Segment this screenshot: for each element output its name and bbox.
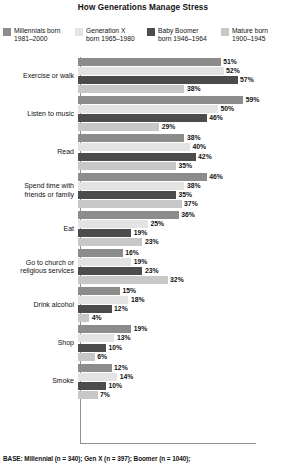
bar-row[interactable]: 50% — [78, 105, 286, 113]
bar-value-label: 52% — [226, 67, 240, 75]
bar[interactable] — [78, 325, 131, 333]
bar[interactable] — [78, 314, 89, 322]
bar[interactable] — [78, 364, 112, 372]
bar-row[interactable]: 46% — [78, 173, 286, 181]
legend-item-1[interactable]: Generation Xborn 1965–1980 — [75, 27, 147, 44]
bar[interactable] — [78, 305, 112, 313]
bar[interactable] — [78, 85, 184, 93]
bar[interactable] — [78, 182, 184, 190]
bar[interactable] — [78, 344, 106, 352]
category-label: Read — [0, 148, 78, 156]
bar-row[interactable]: 10% — [78, 382, 286, 390]
bar-row[interactable]: 12% — [78, 364, 286, 372]
bar[interactable] — [78, 334, 114, 342]
bar[interactable] — [78, 67, 224, 75]
bar-row[interactable]: 38% — [78, 85, 286, 93]
bar-row[interactable]: 40% — [78, 143, 286, 151]
plot-area: Exercise or walk51%52%57%38%Listen to mu… — [0, 57, 286, 445]
bar[interactable] — [78, 373, 117, 381]
category-label-line2: religious services — [0, 267, 74, 275]
bar[interactable] — [78, 267, 142, 275]
bar-value-label: 6% — [97, 353, 107, 361]
bar-row[interactable]: 37% — [78, 200, 286, 208]
bar[interactable] — [78, 162, 176, 170]
legend-label-line2: born 1965–1980 — [86, 35, 135, 43]
bar-row[interactable]: 46% — [78, 114, 286, 122]
legend-item-label: Mature born1900–1945 — [232, 27, 268, 44]
bar[interactable] — [78, 211, 179, 219]
bar-row[interactable]: 19% — [78, 229, 286, 237]
bar-value-label: 57% — [240, 76, 254, 84]
bar-row[interactable]: 57% — [78, 76, 286, 84]
bar-row[interactable]: 36% — [78, 211, 286, 219]
bar[interactable] — [78, 391, 98, 399]
legend-label-line2: born 1946–1964 — [158, 35, 207, 43]
bar-row[interactable]: 42% — [78, 153, 286, 161]
bar-value-label: 23% — [145, 267, 159, 275]
bar-row[interactable]: 35% — [78, 191, 286, 199]
bar-row[interactable]: 7% — [78, 391, 286, 399]
bar[interactable] — [78, 258, 131, 266]
bar-value-label: 4% — [92, 314, 102, 322]
bar-value-label: 29% — [162, 123, 176, 131]
bar-row[interactable]: 13% — [78, 334, 286, 342]
bar[interactable] — [78, 200, 182, 208]
bar-row[interactable]: 59% — [78, 96, 286, 104]
bar[interactable] — [78, 276, 168, 284]
bar-row[interactable]: 29% — [78, 123, 286, 131]
bar-row[interactable]: 51% — [78, 58, 286, 66]
bar[interactable] — [78, 143, 190, 151]
bar[interactable] — [78, 353, 95, 361]
bar[interactable] — [78, 191, 176, 199]
legend-item-0[interactable]: Millennials born1981–2000 — [3, 27, 75, 44]
bar-row[interactable]: 14% — [78, 373, 286, 381]
bar-value-label: 19% — [134, 258, 148, 266]
bar-group: Go to church orreligious services16%19%2… — [0, 248, 286, 286]
bar[interactable] — [78, 249, 123, 257]
legend-item-3[interactable]: Mature born1900–1945 — [221, 27, 283, 44]
bar[interactable] — [78, 238, 142, 246]
legend-item-2[interactable]: Baby Boomerborn 1946–1964 — [147, 27, 221, 44]
bar-row[interactable]: 12% — [78, 305, 286, 313]
bar[interactable] — [78, 58, 221, 66]
bar[interactable] — [78, 173, 207, 181]
bar-group: Drink alcohol15%18%12%4% — [0, 286, 286, 324]
bar[interactable] — [78, 123, 159, 131]
bar-row[interactable]: 19% — [78, 325, 286, 333]
bar-set: 19%13%10%6% — [78, 324, 286, 362]
bar[interactable] — [78, 153, 196, 161]
bar[interactable] — [78, 382, 106, 390]
bar-row[interactable]: 25% — [78, 220, 286, 228]
chart-title: How Generations Manage Stress — [0, 3, 286, 12]
bar-value-label: 7% — [100, 391, 110, 399]
bar-row[interactable]: 32% — [78, 276, 286, 284]
bar[interactable] — [78, 76, 238, 84]
chart-container: How Generations Manage Stress Millennial… — [0, 0, 286, 468]
bar-row[interactable]: 38% — [78, 182, 286, 190]
bar-row[interactable]: 23% — [78, 267, 286, 275]
bar[interactable] — [78, 287, 120, 295]
bar[interactable] — [78, 229, 131, 237]
bar-row[interactable]: 4% — [78, 314, 286, 322]
bar-set: 15%18%12%4% — [78, 286, 286, 324]
bar-row[interactable]: 38% — [78, 134, 286, 142]
bar-row[interactable]: 23% — [78, 238, 286, 246]
bar-row[interactable]: 19% — [78, 258, 286, 266]
bar-row[interactable]: 16% — [78, 249, 286, 257]
bar-row[interactable]: 15% — [78, 287, 286, 295]
bar-set: 38%40%42%35% — [78, 133, 286, 171]
bar[interactable] — [78, 105, 218, 113]
bar[interactable] — [78, 114, 207, 122]
bar[interactable] — [78, 96, 243, 104]
bar[interactable] — [78, 220, 148, 228]
bar-row[interactable]: 10% — [78, 344, 286, 352]
bar[interactable] — [78, 134, 184, 142]
bar-row[interactable]: 18% — [78, 296, 286, 304]
bar-row[interactable]: 52% — [78, 67, 286, 75]
category-label: Eat — [0, 225, 78, 233]
bar[interactable] — [78, 296, 128, 304]
bar-row[interactable]: 6% — [78, 353, 286, 361]
category-label: Shop — [0, 339, 78, 347]
bar-row[interactable]: 35% — [78, 162, 286, 170]
bar-value-label: 51% — [223, 58, 237, 66]
